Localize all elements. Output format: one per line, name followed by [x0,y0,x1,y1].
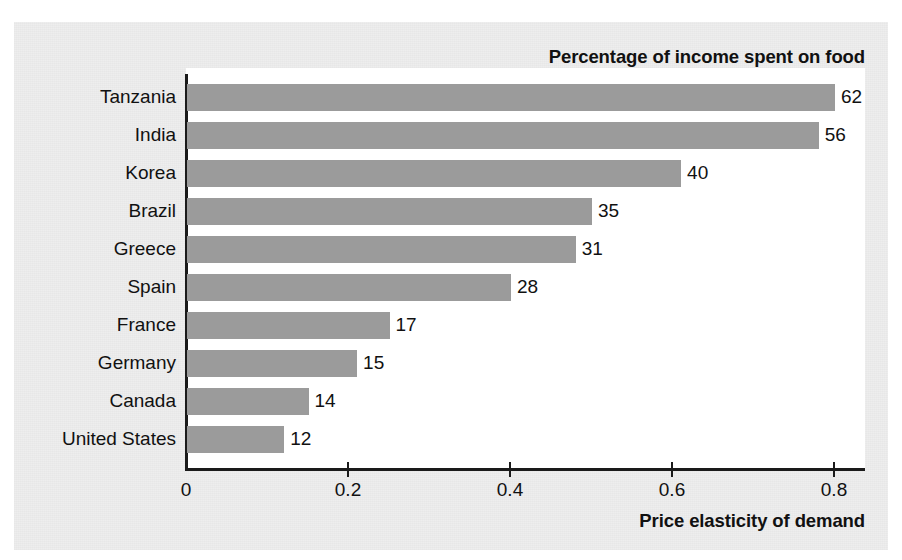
bar [187,426,284,453]
bar [187,274,511,301]
bar [187,312,390,339]
category-label: Greece [114,235,176,263]
x-axis-tick [833,462,835,477]
category-label: Tanzania [100,83,176,111]
bar-value-label: 28 [517,273,538,301]
bar-value-label: 15 [363,349,384,377]
bar [187,388,309,415]
x-axis-tick-label: 0 [181,479,192,501]
category-label: Brazil [128,197,176,225]
category-label: Canada [109,387,176,415]
bar-row: France17 [0,312,902,339]
x-axis-title: Price elasticity of demand [639,510,865,532]
bar [187,160,681,187]
bar [187,122,819,149]
bar-value-label: 35 [598,197,619,225]
category-label: Korea [125,159,176,187]
x-axis-tick-label: 0.8 [821,479,847,501]
bar-row: Tanzania62 [0,84,902,111]
bar-value-label: 12 [290,425,311,453]
bar [187,236,576,263]
bar-row: Germany15 [0,350,902,377]
category-label: Spain [127,273,176,301]
x-axis-tick [509,462,511,477]
bar-value-label: 14 [315,387,336,415]
x-axis-tick [671,462,673,477]
x-axis-tick-label: 0.6 [659,479,685,501]
x-axis-tick-label: 0.4 [497,479,523,501]
chart-screenshot: Percentage of income spent on food 00.20… [0,0,902,560]
bar-value-label: 62 [841,83,862,111]
category-label: France [117,311,176,339]
chart-title: Percentage of income spent on food [549,46,865,68]
x-axis-tick [347,462,349,477]
bar-row: Canada14 [0,388,902,415]
bar-value-label: 56 [825,121,846,149]
bar-row: India56 [0,122,902,149]
category-label: India [135,121,176,149]
bar-value-label: 40 [687,159,708,187]
bar-value-label: 17 [396,311,417,339]
category-label: Germany [98,349,176,377]
bar-row: Korea40 [0,160,902,187]
x-axis-tick-label: 0.2 [335,479,361,501]
bar [187,84,835,111]
bar-row: Spain28 [0,274,902,301]
bar [187,350,357,377]
category-label: United States [62,425,176,453]
bar [187,198,592,225]
bar-row: United States12 [0,426,902,453]
bar-row: Greece31 [0,236,902,263]
bar-value-label: 31 [582,235,603,263]
bar-row: Brazil35 [0,198,902,225]
x-axis-line [185,468,865,471]
